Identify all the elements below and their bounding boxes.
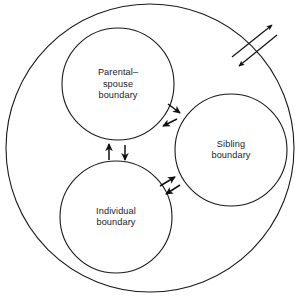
subsystem-sibling: Sibling boundary (175, 94, 287, 206)
diagram-canvas: Parental– spouse boundary Sibling bounda… (0, 0, 301, 298)
parental-spouse-label-line2: spouse (103, 79, 133, 89)
individual-label-line1: Individual (96, 206, 136, 216)
parental-spouse-label-line1: Parental– (98, 67, 139, 77)
sibling-label-line2: boundary (211, 150, 250, 160)
sibling-label-line1: Sibling (217, 139, 245, 149)
parental-spouse-label-line3: boundary (98, 90, 137, 100)
boundary-diagram: Parental– spouse boundary Sibling bounda… (0, 0, 301, 298)
individual-label-line2: boundary (96, 217, 135, 227)
subsystem-parental-spouse: Parental– spouse boundary (62, 28, 174, 140)
subsystem-individual: Individual boundary (60, 161, 172, 273)
